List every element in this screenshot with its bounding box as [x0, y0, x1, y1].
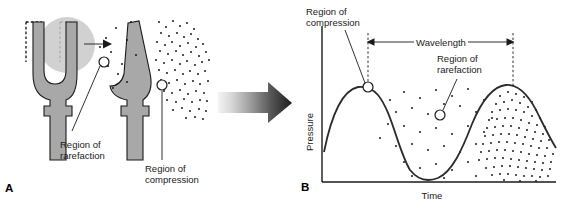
label-rarefaction-a-line2: rarefaction	[60, 150, 105, 161]
pressure-wave-curve	[324, 85, 556, 180]
transition-arrow	[218, 82, 292, 123]
panel-letter-a: A	[5, 182, 13, 194]
y-axis-label: Pressure	[304, 113, 315, 151]
label-compression-b-line2: compression	[306, 17, 360, 28]
rarefaction-marker-b	[435, 110, 445, 120]
tuning-fork-right-deflected	[110, 21, 151, 160]
rarefaction-marker-a	[99, 57, 109, 67]
label-wavelength: Wavelength	[416, 37, 466, 48]
compression-particle-field	[155, 20, 210, 120]
compression-particle-field-b	[478, 91, 554, 182]
label-rarefaction-a-line1: Region of	[60, 139, 101, 150]
x-axis-label: Time	[422, 190, 443, 201]
compression-marker-a	[157, 80, 167, 90]
label-compression-a-line2: compression	[145, 174, 199, 185]
compression-marker-b	[363, 82, 373, 92]
label-compression-a-line1: Region of	[145, 163, 186, 174]
panel-b: Wavelength Region of compression Region …	[301, 6, 556, 201]
label-rarefaction-b-line1: Region of	[437, 53, 478, 64]
compression-leader-b	[345, 30, 365, 83]
panel-a: Region of rarefaction Region of compress…	[5, 17, 210, 194]
figure-root: Region of rarefaction Region of compress…	[0, 0, 571, 208]
panel-letter-b: B	[301, 181, 309, 193]
rarefaction-leader-b	[443, 79, 457, 110]
figure-canvas: Region of rarefaction Region of compress…	[0, 0, 571, 208]
label-compression-b-line1: Region of	[306, 6, 347, 17]
label-rarefaction-b-line2: rarefaction	[437, 64, 482, 75]
